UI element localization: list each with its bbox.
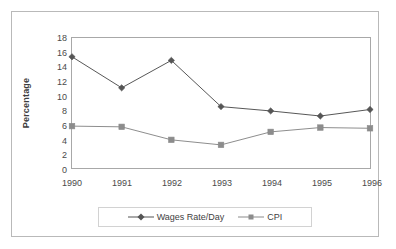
y-axis-tick-label: 14	[57, 63, 67, 72]
data-point-square	[268, 129, 274, 135]
data-point-diamond	[118, 85, 124, 91]
plot-area: 181614121086420 199019911992199319941995…	[71, 37, 371, 169]
x-axis-tick-label: 1993	[212, 179, 232, 188]
y-axis-tick-label: 12	[57, 78, 67, 87]
series-wages-rate-day	[69, 54, 373, 120]
legend-entry-wages-rate-day[interactable]: Wages Rate/Day	[128, 212, 225, 222]
y-axis-tick-label: 0	[62, 166, 67, 175]
data-point-diamond	[367, 106, 373, 112]
data-point-square	[69, 123, 75, 129]
y-axis-title: Percentage	[21, 78, 31, 129]
y-axis-tick-label: 10	[57, 92, 67, 101]
x-axis-tick-label: 1995	[312, 179, 332, 188]
y-axis-tick-label: 8	[62, 107, 67, 116]
data-point-diamond	[69, 54, 75, 60]
x-axis-tick-label: 1991	[112, 179, 132, 188]
legend-diamond-icon	[128, 212, 154, 222]
x-axis-tick-label: 1994	[262, 179, 282, 188]
x-axis-tick-label: 1992	[162, 179, 182, 188]
y-axis-tick-label: 6	[62, 122, 67, 131]
y-axis-tick-label: 2	[62, 151, 67, 160]
chart-frame: Percentage 181614121086420 1990199119921…	[11, 11, 379, 237]
y-axis-tick-label: 16	[57, 48, 67, 57]
data-point-diamond	[317, 113, 323, 119]
data-point-square	[367, 126, 373, 132]
chart-screenshot: Percentage 181614121086420 1990199119921…	[0, 0, 396, 249]
data-point-diamond	[267, 108, 273, 114]
legend-square-icon	[238, 212, 264, 222]
data-point-square	[119, 124, 125, 130]
data-point-square	[169, 137, 175, 143]
x-axis-tick-label: 1996	[362, 179, 382, 188]
legend-label: Wages Rate/Day	[157, 212, 225, 222]
legend-entry-cpi[interactable]: CPI	[238, 212, 282, 222]
legend-label: CPI	[267, 212, 282, 222]
chart-legend: Wages Rate/DayCPI	[98, 207, 312, 227]
series-cpi	[69, 123, 373, 147]
y-axis-tick-label: 18	[57, 34, 67, 43]
x-axis-tick-label: 1990	[62, 179, 82, 188]
series-plot	[72, 38, 370, 168]
y-axis-tick-label: 4	[62, 136, 67, 145]
data-point-square	[218, 142, 224, 148]
data-point-square	[318, 125, 324, 131]
